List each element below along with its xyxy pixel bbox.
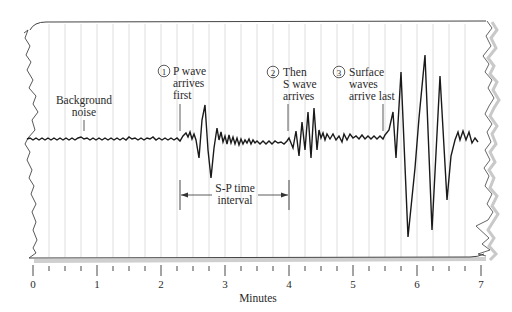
paper-top-edge [30,21,486,30]
x-axis-tick-labels: 0 1 2 3 4 5 6 7 [30,278,484,290]
p-wave-number: 1 [162,67,167,77]
surface-waves-label-line2: waves [349,78,378,90]
tick-label-4: 4 [286,278,292,290]
surface-waves-label-line1: Surface [349,66,384,78]
background-noise-label-line2: noise [72,106,96,118]
tick-label-3: 3 [222,278,228,290]
s-wave-label-line2: S wave [283,78,317,90]
x-axis-title: Minutes [239,292,277,304]
background-noise-annotation: Background noise [56,94,112,131]
tick-label-0: 0 [30,278,36,290]
p-wave-label-line1: P wave [173,65,206,77]
surface-waves-annotation: 3 Surface waves arrive last [333,66,395,131]
s-wave-number: 2 [271,68,276,78]
seismogram-trace [27,55,478,237]
p-wave-annotation: 1 P wave arrives first [158,65,206,131]
sp-interval-label-line1: S-P time [215,182,255,194]
s-wave-label-line1: Then [283,66,307,78]
tick-label-7: 7 [478,278,484,290]
surface-waves-number: 3 [337,68,342,78]
paper-torn-right-shadow [488,22,499,260]
arrow-left-icon [181,193,188,198]
seismogram-diagram: Background noise 1 P wave arrives first … [0,0,512,312]
tick-label-5: 5 [350,278,356,290]
paper-torn-left-edge [24,30,38,258]
p-wave-label-line2: arrives [173,77,205,89]
tick-label-6: 6 [414,278,420,290]
surface-waves-label-line3: arrive last [349,90,395,102]
tick-label-1: 1 [94,278,100,290]
tick-label-2: 2 [158,278,164,290]
sp-interval-label-line2: interval [217,194,252,206]
paper-bottom-shadow [34,259,486,261]
s-wave-label-line3: arrives [283,90,315,102]
p-wave-label-line3: first [173,89,192,101]
arrow-right-icon [281,193,288,198]
x-axis-ticks [33,265,481,276]
